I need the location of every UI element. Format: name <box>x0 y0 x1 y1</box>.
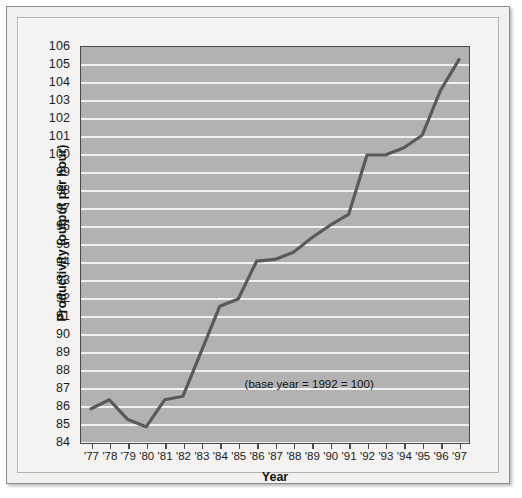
x-axis-tick-labels: '77'78'79'80'81'82'83'84'85'86'87'88'89'… <box>80 450 470 466</box>
y-axis-tick-label: 89 <box>56 345 70 359</box>
y-axis-tick-label: 101 <box>49 129 70 143</box>
x-axis-tick-label: '96 <box>434 450 449 462</box>
x-axis-ticks <box>80 443 470 450</box>
y-axis-tick-labels: 8485868788899091929394959697989910010110… <box>18 46 74 442</box>
figure-frame: Productivity (output per hour) 848586878… <box>6 6 510 484</box>
y-axis-tick-label: 93 <box>56 273 70 287</box>
x-axis-tick-label: '83 <box>194 450 209 462</box>
x-axis-tick-label: '89 <box>305 450 320 462</box>
y-axis-tick-label: 104 <box>49 75 70 89</box>
x-axis-tick-label: '86 <box>250 450 265 462</box>
x-axis-tick <box>331 443 333 449</box>
x-axis-tick-label: '84 <box>213 450 228 462</box>
x-axis-tick <box>239 443 241 449</box>
y-axis-tick-label: 105 <box>49 57 70 71</box>
x-axis-tick <box>165 443 167 449</box>
x-axis-tick-label: '80 <box>139 450 154 462</box>
x-axis-tick <box>368 443 370 449</box>
x-axis-tick <box>276 443 278 449</box>
y-axis-tick-label: 88 <box>56 363 70 377</box>
x-axis-tick <box>460 443 462 449</box>
x-axis-tick-label: '91 <box>342 450 357 462</box>
y-axis-tick-label: 100 <box>49 147 70 161</box>
y-axis-tick-label: 87 <box>56 381 70 395</box>
y-axis-tick-label: 98 <box>56 183 70 197</box>
x-axis-tick-label: '79 <box>121 450 136 462</box>
y-axis-tick-label: 85 <box>56 417 70 431</box>
y-axis-tick-label: 91 <box>56 309 70 323</box>
x-axis-title: Year <box>80 470 470 484</box>
x-axis-tick <box>110 443 112 449</box>
x-axis-tick-label: '78 <box>102 450 117 462</box>
x-axis-tick <box>257 443 259 449</box>
x-axis-tick <box>312 443 314 449</box>
y-axis-tick-label: 99 <box>56 165 70 179</box>
y-axis-tick-label: 94 <box>56 255 70 269</box>
x-axis-tick <box>423 443 425 449</box>
x-axis-tick-label: '97 <box>452 450 467 462</box>
x-axis-tick <box>184 443 186 449</box>
x-axis-tick <box>386 443 388 449</box>
x-axis-tick <box>147 443 149 449</box>
x-axis-tick-label: '93 <box>378 450 393 462</box>
y-axis-tick-label: 102 <box>49 111 70 125</box>
base-year-annotation: (base year = 1992 = 100) <box>245 378 374 390</box>
x-axis-tick-label: '92 <box>360 450 375 462</box>
x-axis-tick-label: '90 <box>323 450 338 462</box>
x-axis-tick-label: '85 <box>231 450 246 462</box>
y-axis-tick-label: 95 <box>56 237 70 251</box>
x-axis-tick <box>92 443 94 449</box>
x-axis-tick <box>349 443 351 449</box>
x-axis-tick-label: '88 <box>286 450 301 462</box>
x-axis-tick <box>128 443 130 449</box>
x-axis-tick-label: '95 <box>415 450 430 462</box>
x-axis-tick <box>404 443 406 449</box>
x-axis-tick <box>294 443 296 449</box>
x-axis-tick <box>441 443 443 449</box>
x-axis-tick <box>202 443 204 449</box>
y-axis-tick-label: 86 <box>56 399 70 413</box>
x-axis-tick-label: '82 <box>176 450 191 462</box>
x-axis-tick-label: '81 <box>158 450 173 462</box>
y-axis-tick-label: 103 <box>49 93 70 107</box>
y-axis-tick-label: 84 <box>56 435 70 449</box>
x-axis-tick-label: '94 <box>397 450 412 462</box>
y-axis-tick-label: 96 <box>56 219 70 233</box>
productivity-series-line <box>91 60 459 427</box>
x-axis-tick-label: '77 <box>84 450 99 462</box>
productivity-line-chart: Productivity (output per hour) 848586878… <box>18 18 500 474</box>
y-axis-tick-label: 106 <box>49 39 70 53</box>
y-axis-tick-label: 92 <box>56 291 70 305</box>
y-axis-tick-label: 97 <box>56 201 70 215</box>
plot-area: (base year = 1992 = 100) <box>80 46 470 444</box>
figure-inner-panel: Productivity (output per hour) 848586878… <box>17 17 499 473</box>
y-axis-tick-label: 90 <box>56 327 70 341</box>
x-axis-tick-label: '87 <box>268 450 283 462</box>
x-axis-tick <box>220 443 222 449</box>
